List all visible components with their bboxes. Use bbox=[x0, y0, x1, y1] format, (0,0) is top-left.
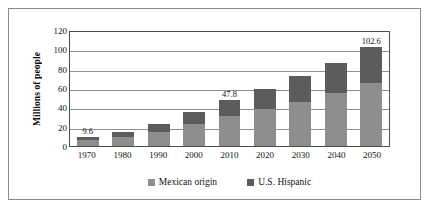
x-axis-tick-labels: 197019801990200020102020203020402050 bbox=[69, 150, 390, 164]
bar-segment-us-hispanic[interactable] bbox=[219, 100, 241, 117]
bar-segment-us-hispanic[interactable] bbox=[360, 47, 382, 83]
bar-group[interactable] bbox=[141, 32, 176, 146]
bar-segment-us-hispanic[interactable] bbox=[183, 112, 205, 124]
bar-stack[interactable] bbox=[219, 100, 241, 146]
bar-segment-us-hispanic[interactable] bbox=[148, 124, 170, 132]
x-axis-tick-label: 2050 bbox=[354, 150, 390, 164]
bar-group[interactable] bbox=[176, 32, 211, 146]
y-axis-tick-label: 100 bbox=[45, 46, 67, 55]
bar-segment-mexican-origin[interactable] bbox=[289, 102, 311, 146]
bar-stack[interactable] bbox=[148, 124, 170, 146]
legend-entry[interactable]: U.S. Hispanic bbox=[247, 177, 311, 187]
x-axis-tick-label: 2030 bbox=[283, 150, 319, 164]
y-axis-title: Millions of people bbox=[29, 31, 45, 147]
bar-group[interactable] bbox=[318, 32, 353, 146]
y-axis-tick-label: 60 bbox=[45, 85, 67, 94]
bar-stack[interactable] bbox=[183, 112, 205, 146]
y-axis-tick-label: 20 bbox=[45, 123, 67, 132]
bar-stack[interactable] bbox=[325, 63, 347, 146]
bar-stack[interactable] bbox=[289, 76, 311, 146]
bar-total-label: 9.6 bbox=[82, 127, 93, 136]
plot-area: 9.66.147.830.6102.665.7 bbox=[69, 31, 390, 147]
bar-total-label: 47.8 bbox=[222, 90, 237, 99]
bar-segment-mexican-origin[interactable] bbox=[183, 124, 205, 146]
bar-group[interactable]: 47.830.6 bbox=[212, 32, 247, 146]
bar-stack[interactable] bbox=[77, 137, 99, 146]
chart-legend: Mexican originU.S. Hispanic bbox=[69, 175, 390, 189]
legend-label: Mexican origin bbox=[159, 177, 217, 187]
y-axis-tick-label: 40 bbox=[45, 104, 67, 113]
bar-group[interactable] bbox=[247, 32, 282, 146]
bar-group[interactable]: 102.665.7 bbox=[354, 32, 389, 146]
figure-frame: Millions of people 020406080100120 9.66.… bbox=[8, 8, 421, 200]
bar-group[interactable] bbox=[283, 32, 318, 146]
bar-group[interactable]: 9.66.1 bbox=[70, 32, 105, 146]
bar-segment-mexican-origin[interactable] bbox=[219, 116, 241, 146]
y-axis-tick-label: 0 bbox=[45, 143, 67, 152]
x-axis-tick-label: 1970 bbox=[69, 150, 105, 164]
legend-swatch-icon bbox=[148, 179, 155, 186]
bars-layer: 9.66.147.830.6102.665.7 bbox=[70, 32, 389, 146]
x-axis-tick-label: 2020 bbox=[247, 150, 283, 164]
legend-entry[interactable]: Mexican origin bbox=[148, 177, 217, 187]
bar-stack[interactable] bbox=[112, 132, 134, 146]
x-axis-tick-label: 1990 bbox=[140, 150, 176, 164]
bar-segment-mexican-origin[interactable] bbox=[112, 137, 134, 146]
y-axis-title-text: Millions of people bbox=[32, 52, 42, 126]
x-axis-tick-label: 2010 bbox=[212, 150, 248, 164]
bar-segment-mexican-origin[interactable] bbox=[325, 93, 347, 146]
y-axis-tick-labels: 020406080100120 bbox=[45, 27, 67, 151]
bar-segment-us-hispanic[interactable] bbox=[325, 63, 347, 93]
bar-group[interactable] bbox=[105, 32, 140, 146]
bar-total-label: 102.6 bbox=[362, 37, 381, 46]
bar-stack[interactable] bbox=[254, 88, 276, 146]
legend-label: U.S. Hispanic bbox=[258, 177, 311, 187]
y-axis-tick-label: 80 bbox=[45, 65, 67, 74]
bar-segment-mexican-origin[interactable] bbox=[77, 140, 99, 146]
bar-stack[interactable] bbox=[360, 47, 382, 146]
bar-segment-mexican-origin[interactable] bbox=[148, 132, 170, 146]
x-axis-tick-label: 2040 bbox=[319, 150, 355, 164]
x-axis-tick-label: 1980 bbox=[105, 150, 141, 164]
legend-swatch-icon bbox=[247, 179, 254, 186]
x-axis-tick-label: 2000 bbox=[176, 150, 212, 164]
bar-segment-us-hispanic[interactable] bbox=[289, 76, 311, 101]
bar-segment-mexican-origin[interactable] bbox=[360, 83, 382, 147]
y-axis-tick-label: 120 bbox=[45, 27, 67, 36]
bar-segment-mexican-origin[interactable] bbox=[254, 109, 276, 146]
bar-segment-us-hispanic[interactable] bbox=[254, 89, 276, 110]
